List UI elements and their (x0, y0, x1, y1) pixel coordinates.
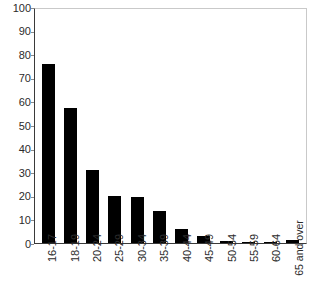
bar-series (35, 9, 306, 243)
x-axis-label-slot: 30-34 (126, 246, 148, 305)
plot-area (34, 8, 307, 244)
x-axis-tick-label: 35-39 (159, 234, 170, 262)
bar-slot (104, 9, 126, 243)
x-axis-tick-label: 65 and over (294, 220, 305, 275)
x-axis-label-slot: 40-44 (171, 246, 193, 305)
bar (64, 108, 77, 243)
bar-slot (282, 9, 304, 243)
bar-slot (148, 9, 170, 243)
bar-slot (59, 9, 81, 243)
x-axis-label-slot: 35-39 (148, 246, 170, 305)
bar-chart: 1009080706050403020100 16-1718-1920-2425… (0, 0, 315, 305)
bar-slot (237, 9, 259, 243)
x-axis-tick-label: 20-24 (92, 234, 103, 262)
x-axis-label-slot: 50-54 (215, 246, 237, 305)
bar-slot (215, 9, 237, 243)
x-axis-label-slot: 65 and over (283, 246, 305, 305)
x-axis-label-slot: 18-19 (58, 246, 80, 305)
x-axis-tick-label: 40-44 (182, 234, 193, 262)
x-axis-label-slot: 20-24 (81, 246, 103, 305)
x-axis-label-slot: 45-49 (193, 246, 215, 305)
bar (42, 64, 55, 243)
x-axis-tick-label: 50-54 (227, 234, 238, 262)
x-axis-tick-label: 25-29 (114, 234, 125, 262)
bar-slot (260, 9, 282, 243)
x-axis-label-slot: 16-17 (36, 246, 58, 305)
bar-slot (37, 9, 59, 243)
bar (86, 170, 99, 243)
x-axis-tick-label: 18-19 (70, 234, 81, 262)
y-axis-tick-mark (31, 244, 34, 245)
x-axis-label-slot: 25-29 (103, 246, 125, 305)
y-axis: 1009080706050403020100 (0, 8, 34, 244)
x-axis-tick-label: 16-17 (47, 234, 58, 262)
bar-slot (82, 9, 104, 243)
x-axis-labels: 16-1718-1920-2425-2930-3435-3940-4445-49… (34, 246, 307, 305)
bar-slot (193, 9, 215, 243)
x-axis-tick-label: 55-59 (249, 234, 260, 262)
bar-slot (126, 9, 148, 243)
x-axis-label-slot: 60-64 (260, 246, 282, 305)
x-axis-tick-label: 45-49 (204, 234, 215, 262)
bar-slot (171, 9, 193, 243)
x-axis-tick-label: 60-64 (271, 234, 282, 262)
x-axis-label-slot: 55-59 (238, 246, 260, 305)
x-axis-tick-label: 30-34 (137, 234, 148, 262)
